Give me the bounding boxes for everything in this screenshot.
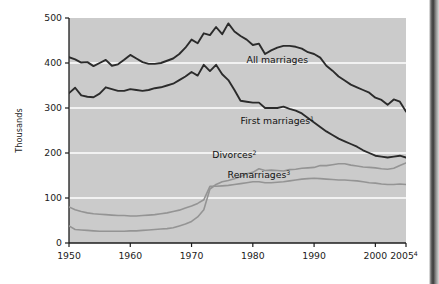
y-tick-label-300: 300	[44, 102, 62, 113]
x-tick-label-1980: 1980	[241, 250, 265, 261]
y-axis-title: Thousands	[14, 108, 24, 153]
x-tick-label-1960: 1960	[118, 250, 142, 261]
plot-texture-overlay	[69, 18, 406, 243]
x-tick-label-2005: 20054	[390, 250, 418, 262]
chart-figure: 0100200300400500195019601970198019902000…	[0, 0, 439, 284]
y-tick-label-0: 0	[56, 237, 62, 248]
page-edge-artifact	[425, 0, 439, 284]
x-tick-label-1970: 1970	[180, 250, 204, 261]
series-label-all-marriages: All marriages	[247, 54, 309, 65]
series-label-remarriages: Remarriages3	[228, 168, 291, 180]
y-tick-label-200: 200	[44, 147, 62, 158]
x-tick-label-2000: 2000	[364, 250, 388, 261]
x-tick-label-1950: 1950	[57, 250, 81, 261]
y-tick-label-100: 100	[44, 192, 62, 203]
x-tick-label-1990: 1990	[302, 250, 326, 261]
y-tick-label-400: 400	[44, 57, 62, 68]
series-label-first-marriages: First marriages1	[241, 114, 315, 126]
y-tick-label-500: 500	[44, 12, 62, 23]
line-chart: 0100200300400500195019601970198019902000…	[0, 0, 439, 284]
series-label-divorces: Divorces2	[212, 148, 256, 160]
